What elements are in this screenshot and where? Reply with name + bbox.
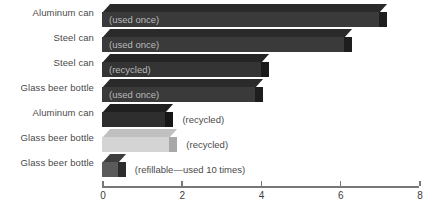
bar-side-face [261,62,269,77]
bar-front-face [102,62,261,77]
bar-side-face [344,37,352,52]
bar-row[interactable]: (refillable—used 10 times) [102,154,298,178]
category-label-row-4: Aluminum can [0,107,94,121]
bar-annotation: (refillable—used 10 times) [135,162,245,177]
x-axis-tick [181,181,183,186]
category-label-row-0: Aluminum can [0,7,94,21]
category-label-text: Steel can [53,32,94,43]
x-axis-tick-label: 8 [417,190,423,201]
x-axis-tick [419,181,421,186]
x-axis: 02468 [102,186,419,188]
bar-row[interactable]: (recycled) [102,104,345,128]
bar-side-face [255,87,263,102]
category-label-text: Steel can [53,57,94,68]
category-label-row-3: Glass beer bottle [0,82,94,96]
x-axis-tick [102,181,104,186]
category-label-row-6: Glass beer bottle [0,157,94,171]
category-label-row-5: Glass beer bottle [0,132,94,146]
x-axis-tick [340,181,342,186]
bar-side-face [118,162,126,177]
category-label-row-1: Steel can [0,32,94,46]
x-axis-tick-label: 0 [100,190,106,201]
category-label-text: Aluminum can [33,7,94,18]
category-label-text: Aluminum can [33,107,94,118]
category-label-text: Glass beer bottle [20,82,94,93]
category-label-text: Glass beer bottle [20,132,94,143]
bar-front-face [102,162,118,177]
bar-front-face [102,137,169,152]
bar-row[interactable]: (recycled) [102,129,349,153]
x-axis-tick-label: 6 [338,190,344,201]
bar-annotation: (recycled) [186,137,228,152]
bar-side-face [169,137,177,152]
x-axis-tick-label: 4 [259,190,265,201]
bar-annotation: (recycled) [182,112,224,127]
category-label-text: Glass beer bottle [20,157,94,168]
bar-front-face [102,37,344,52]
bar-chart: Aluminum can Steel can Steel can Glass b… [0,0,439,218]
bar-front-face [102,12,379,27]
bar-front-face [102,87,255,102]
category-label-row-2: Steel can [0,57,94,71]
bar-row[interactable]: (used once) [102,4,388,28]
bar-side-face [165,112,173,127]
bar-row[interactable]: (used once) [102,29,353,53]
x-axis-tick [261,181,263,186]
bar-row[interactable]: (used once) [102,79,264,103]
bar-front-face [102,112,165,127]
bar-side-face [379,12,387,27]
bar-row[interactable]: (recycled) [102,54,270,78]
x-axis-tick-label: 2 [179,190,185,201]
